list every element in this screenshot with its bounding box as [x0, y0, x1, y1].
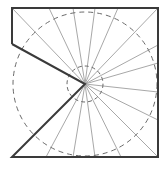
tread-line	[85, 45, 158, 84]
tread-line	[85, 84, 158, 92]
tread-line	[49, 8, 85, 84]
tread-line	[85, 84, 158, 120]
tread-line	[85, 8, 158, 84]
staircase-diagram	[0, 0, 166, 171]
tread-line	[85, 63, 158, 84]
tread-line	[73, 8, 85, 84]
tread-line	[12, 8, 85, 84]
staircase-plan-drawing	[0, 0, 166, 171]
